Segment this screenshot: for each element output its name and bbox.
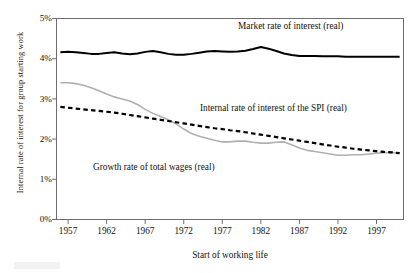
- x-tick-label: 1997: [357, 226, 397, 236]
- plot-frame: [57, 19, 404, 220]
- x-tick-label: 1962: [87, 226, 127, 236]
- y-tick-label: 5%: [32, 14, 52, 23]
- series-growth-rate-of-total-wages: [60, 83, 399, 155]
- x-tick-label: 1987: [279, 226, 319, 236]
- x-tick-label: 1992: [318, 226, 358, 236]
- annotation-market-rate: Market rate of interest (real): [238, 21, 343, 31]
- y-tick-marks: [52, 19, 57, 220]
- y-tick-label: 0%: [32, 215, 52, 224]
- y-tick-label: 4%: [32, 54, 52, 63]
- y-tick-label: 2%: [32, 135, 52, 144]
- annotation-spi-rate: Internal rate of interest of the SPI (re…: [200, 103, 347, 113]
- x-tick-label: 1977: [202, 226, 242, 236]
- x-tick-label: 1982: [241, 226, 281, 236]
- x-axis-label: Start of working life: [56, 250, 404, 260]
- x-tick-label: 1967: [125, 226, 165, 236]
- series-market-rate-of-interest: [60, 47, 399, 57]
- y-tick-label: 3%: [32, 95, 52, 104]
- caption-placeholder: [14, 262, 60, 269]
- y-tick-label: 1%: [32, 175, 52, 184]
- x-tick-label: 1972: [164, 226, 204, 236]
- x-tick-label: 1957: [48, 226, 88, 236]
- chart-figure: Internal rate of interest for group star…: [0, 0, 417, 273]
- annotation-wages-rate: Growth rate of total wages (real): [93, 162, 215, 172]
- x-tick-marks: [68, 220, 376, 225]
- y-axis-label: Internal rate of interest for group star…: [16, 8, 25, 218]
- series-internal-rate-of-interest-spi: [60, 107, 399, 153]
